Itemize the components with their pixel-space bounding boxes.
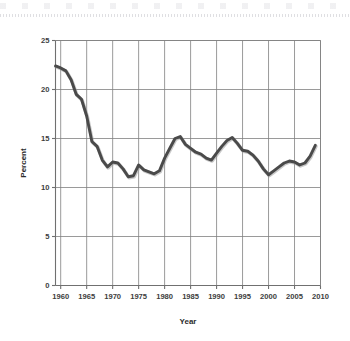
y-tick-label: 15 xyxy=(41,134,50,143)
chart-figure: 0510152025196019651970197519801985199019… xyxy=(0,0,350,341)
x-tick-label: 1970 xyxy=(104,292,121,301)
x-tick-label: 2005 xyxy=(286,292,304,301)
x-tick-label: 1965 xyxy=(78,292,96,301)
tick-labels: 0510152025196019651970197519801985199019… xyxy=(41,36,329,301)
y-axis-title: Percent xyxy=(19,148,28,178)
x-tick-label: 2010 xyxy=(312,292,329,301)
x-tick-label: 1975 xyxy=(130,292,148,301)
x-tick-label: 1960 xyxy=(52,292,69,301)
x-tick-label: 2000 xyxy=(260,292,277,301)
x-axis-title: Year xyxy=(180,317,197,326)
y-tick-label: 0 xyxy=(45,281,49,290)
y-tick-label: 25 xyxy=(41,36,50,45)
axis-lines xyxy=(56,41,321,286)
line-chart: 0510152025196019651970197519801985199019… xyxy=(0,0,350,341)
series-line xyxy=(56,66,316,177)
grid-lines xyxy=(56,41,321,286)
x-tick-label: 1985 xyxy=(182,292,200,301)
y-tick-label: 20 xyxy=(41,85,49,94)
series-line-shadow xyxy=(56,67,316,178)
data-series-line xyxy=(56,66,317,178)
x-tick-label: 1995 xyxy=(234,292,252,301)
y-tick-label: 10 xyxy=(41,183,49,192)
x-tick-label: 1980 xyxy=(156,292,173,301)
x-tick-label: 1990 xyxy=(208,292,225,301)
y-tick-label: 5 xyxy=(45,232,50,241)
